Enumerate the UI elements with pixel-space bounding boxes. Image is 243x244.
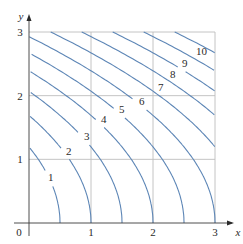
x-tick-3: 3 [212,226,218,238]
contour-label-2: 2 [66,145,72,157]
x-axis-arrow-icon [227,221,234,226]
y-tick-3: 3 [17,26,23,38]
x-axis-label: x [235,226,241,238]
contour-plot: 0 1 2 3 1 2 3 x y 12345678910 [0,0,243,244]
contour-label-9: 9 [182,57,188,69]
contour-line-5 [32,54,184,223]
contour-line-3 [31,93,122,224]
y-tick-2: 2 [17,90,23,102]
origin-label: 0 [16,226,22,238]
contour-line-11 [175,32,215,53]
x-tick-1: 1 [88,226,94,238]
contour-label-4: 4 [101,113,107,125]
y-tick-1: 1 [17,153,23,165]
contour-label-1: 1 [48,171,54,183]
contour-label-7: 7 [158,81,164,93]
contour-label-8: 8 [170,68,176,80]
contour-labels: 12345678910 [48,45,208,183]
contour-line-2 [30,116,91,223]
contour-label-3: 3 [84,130,90,142]
contour-label-6: 6 [139,95,145,107]
y-axis-arrow-icon [27,14,32,21]
contour-label-5: 5 [119,103,125,115]
contour-line-8 [82,32,215,115]
x-tick-2: 2 [150,226,156,238]
contour-label-10: 10 [196,45,208,57]
y-axis-label: y [18,10,24,22]
